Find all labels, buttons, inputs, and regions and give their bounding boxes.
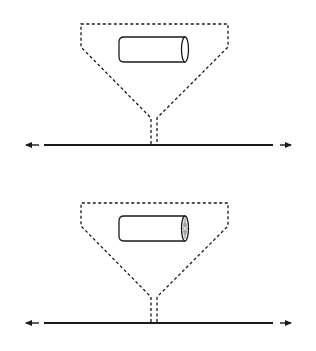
center-core	[184, 226, 186, 231]
panel-top	[26, 24, 291, 145]
cylinder-body	[119, 216, 185, 241]
cylinder-body	[119, 37, 185, 62]
diagram-canvas	[0, 0, 316, 351]
panel-bottom	[26, 203, 291, 323]
cylinder-end-cap	[182, 37, 189, 62]
